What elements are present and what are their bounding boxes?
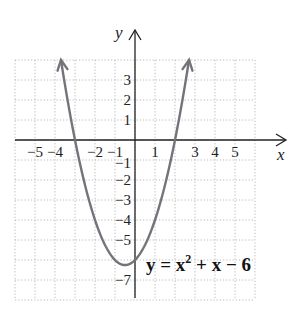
y-tick-label: −3 <box>115 192 131 208</box>
y-tick-label: −1 <box>115 155 131 171</box>
x-tick-label: 5 <box>231 144 239 160</box>
y-tick-label: 3 <box>124 72 132 88</box>
y-tick-label: 1 <box>124 112 132 128</box>
y-tick-label: −4 <box>115 212 131 228</box>
equation-label: y = x2 + x − 6 <box>146 252 251 275</box>
y-tick-label: −5 <box>115 232 131 248</box>
y-tick-label: −2 <box>115 172 131 188</box>
x-tick-label: 1 <box>151 144 159 160</box>
x-tick-label: −5 <box>27 144 43 160</box>
x-tick-label: 4 <box>211 144 219 160</box>
x-axis-label: x <box>276 145 285 164</box>
y-axis-label: y <box>113 23 123 42</box>
equation-lhs: y = x <box>146 254 186 275</box>
x-tick-label: 3 <box>191 144 199 160</box>
y-tick-label: −7 <box>115 272 131 288</box>
y-tick-label: 2 <box>124 92 132 108</box>
parabola-chart: x y −5−4−2−11345321−1−2−3−4−5−7 y = x2 +… <box>0 0 307 322</box>
x-tick-label: −2 <box>87 144 103 160</box>
x-tick-label: −4 <box>47 144 63 160</box>
equation-rhs: + x − 6 <box>191 254 251 275</box>
